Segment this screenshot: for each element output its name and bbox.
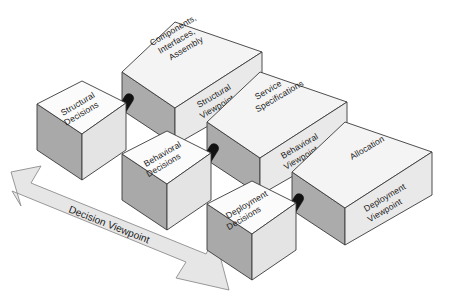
- isometric-scene: Decision Viewpoint Components, Interface…: [0, 0, 449, 306]
- decision-cube-behavioral-decisions: Behavioral Decisions: [122, 131, 211, 230]
- decision-cube-structural-decisions: Structural Decisions: [37, 81, 126, 180]
- diagram-canvas: Decision Viewpoint Components, Interface…: [0, 0, 449, 306]
